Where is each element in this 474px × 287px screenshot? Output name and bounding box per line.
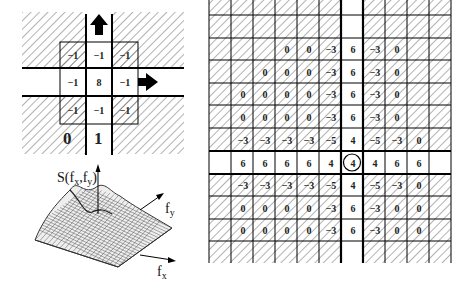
grid-value: 0 (263, 203, 268, 214)
grid-cell (209, 151, 231, 174)
grid-value: 0 (285, 225, 290, 236)
grid-value: 0 (241, 203, 246, 214)
right-grid: 00−36−30000−36−300000−36−300000−36−30−3−… (209, 0, 451, 263)
kernel-value: −1 (120, 77, 131, 88)
grid-value: 6 (395, 158, 400, 169)
grid-value: 0 (395, 112, 400, 123)
grid-cell (253, 241, 275, 263)
grid-cell (275, 241, 297, 263)
grid-value: −3 (370, 112, 381, 123)
grid-cell (231, 60, 253, 83)
grid-value: −3 (326, 89, 337, 100)
grid-cell (319, 0, 341, 15)
grid-value: −3 (326, 112, 337, 123)
grid-cell (407, 60, 429, 83)
grid-cell (209, 0, 231, 15)
grid-cell (363, 0, 385, 15)
grid-cell (407, 83, 429, 105)
grid-cell (231, 38, 253, 60)
grid-value: 0 (307, 112, 312, 123)
grid-cell (407, 0, 429, 15)
grid-value: 6 (241, 158, 246, 169)
grid-cell (275, 0, 297, 15)
grid-cell (297, 15, 319, 38)
grid-cell (407, 105, 429, 128)
grid-value: 0 (285, 44, 290, 55)
grid-value: −3 (282, 135, 293, 146)
grid-cell (231, 0, 253, 15)
grid-value: 0 (263, 67, 268, 78)
grid-value: −5 (326, 135, 337, 146)
grid-value: 0 (285, 203, 290, 214)
grid-value: 0 (263, 112, 268, 123)
grid-value: 4 (351, 180, 356, 191)
kernel-value: −1 (94, 50, 105, 61)
grid-value: 0 (307, 67, 312, 78)
grid-cell (429, 174, 451, 196)
grid-value: −5 (370, 135, 381, 146)
kernel-value: −1 (120, 105, 131, 116)
region-label-1: 1 (94, 129, 103, 148)
grid-cell (429, 0, 451, 15)
kernel-value: −1 (68, 105, 79, 116)
grid-cell (429, 151, 451, 174)
grid-cell (231, 241, 253, 263)
grid-cell (209, 60, 231, 83)
grid-value: 0 (395, 89, 400, 100)
grid-cell (319, 241, 341, 263)
grid-value: 4 (351, 158, 356, 169)
grid-value: −3 (238, 135, 249, 146)
fy-axis-label: fy (165, 201, 175, 218)
grid-value: 0 (307, 44, 312, 55)
grid-cell (209, 241, 231, 263)
grid-value: 0 (307, 225, 312, 236)
grid-cell (341, 241, 363, 263)
grid-value: −3 (392, 180, 403, 191)
grid-value: 6 (351, 44, 356, 55)
figure-canvas: −1−1−1−18−1−1−1−1 0 1 S(fx,fy) fy fx (0, 0, 474, 287)
fx-axis-label: fx (157, 264, 167, 281)
grid-value: −3 (370, 203, 381, 214)
grid-value: 0 (241, 89, 246, 100)
grid-value: 0 (395, 44, 400, 55)
grid-cell (209, 196, 231, 219)
region-label-0: 0 (63, 129, 72, 148)
grid-cell (319, 15, 341, 38)
grid-value: −5 (370, 180, 381, 191)
kernel-value: −1 (68, 50, 79, 61)
grid-cell (341, 0, 363, 15)
grid-cell (407, 241, 429, 263)
kernel-value: −1 (120, 50, 131, 61)
grid-value: 0 (241, 112, 246, 123)
grid-value: 6 (263, 158, 268, 169)
fy-axis (140, 196, 160, 210)
grid-value: 0 (285, 89, 290, 100)
grid-cell (209, 83, 231, 105)
grid-cell (429, 196, 451, 219)
grid-cell (297, 0, 319, 15)
grid-value: −3 (370, 225, 381, 236)
grid-value: 6 (351, 89, 356, 100)
grid-value: 0 (241, 225, 246, 236)
up-arrow-icon (90, 14, 108, 35)
grid-cell (363, 241, 385, 263)
grid-cell (429, 38, 451, 60)
grid-cell (429, 60, 451, 83)
grid-cell (231, 15, 253, 38)
grid-value: 6 (351, 67, 356, 78)
grid-value: −3 (260, 180, 271, 191)
grid-value: 0 (307, 203, 312, 214)
grid-value: −3 (304, 180, 315, 191)
grid-cell (341, 15, 363, 38)
grid-value: −3 (326, 203, 337, 214)
kernel-value: 8 (97, 77, 102, 88)
grid-value: −3 (370, 44, 381, 55)
grid-value: −3 (260, 135, 271, 146)
surface-mesh (35, 185, 172, 267)
grid-value: −3 (326, 44, 337, 55)
grid-value: −3 (326, 225, 337, 236)
grid-cell (209, 219, 231, 241)
grid-value: −3 (304, 135, 315, 146)
kernel-value: −1 (94, 105, 105, 116)
grid-value: 0 (417, 225, 422, 236)
